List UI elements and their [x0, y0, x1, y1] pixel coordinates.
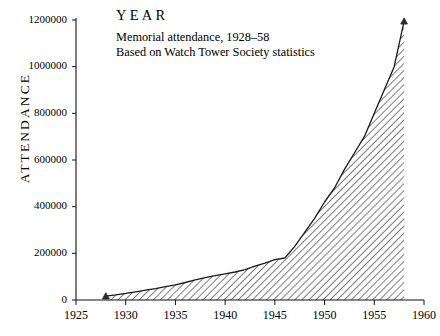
x-tick-label: 1950 — [313, 308, 337, 322]
x-tick-label: 1925 — [64, 308, 88, 322]
chart-figure: ATTENDANCE YEAR Memorial attendance, 192… — [0, 0, 440, 336]
data-point-marker — [401, 18, 408, 24]
y-tick-label-group: 020000040000060000080000010000001200000 — [29, 13, 68, 305]
x-tick-label: 1960 — [412, 308, 436, 322]
plot-area: 020000040000060000080000010000001200000 … — [0, 0, 440, 336]
y-tick-label: 1000000 — [29, 59, 68, 71]
y-tick-label: 0 — [62, 293, 68, 305]
x-tick-mark-group — [76, 300, 424, 305]
y-tick-label: 600000 — [34, 153, 68, 165]
y-tick-label: 400000 — [34, 199, 68, 211]
x-tick-label: 1945 — [263, 308, 287, 322]
x-tick-label: 1955 — [362, 308, 386, 322]
x-tick-label: 1935 — [163, 308, 187, 322]
y-tick-label: 1200000 — [29, 13, 68, 25]
area-fill — [106, 21, 404, 300]
x-tick-label: 1940 — [213, 308, 237, 322]
x-tick-label: 1930 — [114, 308, 138, 322]
y-tick-label: 200000 — [34, 246, 68, 258]
x-tick-label-group: 19251930193519401945195019551960 — [64, 308, 436, 322]
y-tick-label: 800000 — [34, 106, 68, 118]
y-tick-mark-group — [72, 20, 76, 300]
